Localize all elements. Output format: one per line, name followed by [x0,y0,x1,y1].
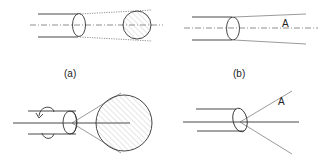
panel-a-caption: (a) [64,68,76,79]
panel-a-diagram [30,10,163,41]
label-A-b: A [282,18,289,29]
figure-canvas: (a) A (b) A [0,0,328,162]
panel-b-caption: (b) [233,68,245,79]
panel-b-diagram [184,14,318,44]
label-A-d: A [278,96,285,107]
panel-c-diagram [13,93,152,153]
